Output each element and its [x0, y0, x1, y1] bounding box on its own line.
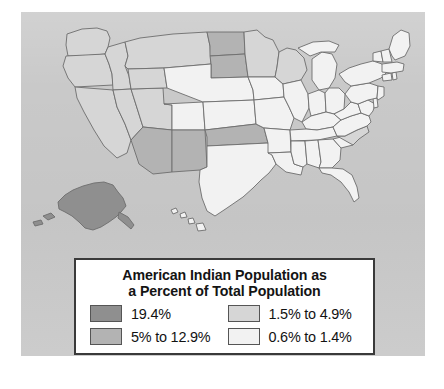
state-ND — [207, 32, 245, 56]
state-FL — [319, 168, 359, 202]
state-RI — [392, 72, 397, 80]
state-TX — [199, 143, 276, 216]
state-WA — [66, 28, 110, 56]
legend-label-2: 5% to 12.9% — [131, 329, 210, 345]
legend-item-0: 19.4% — [90, 305, 226, 322]
legend-label-1: 1.5% to 4.9% — [269, 306, 352, 322]
state-NM — [172, 130, 207, 172]
state-AR — [264, 128, 291, 153]
legend-swatch-2 — [90, 328, 122, 345]
state-MI-up — [298, 41, 339, 56]
state-AK-panhandle — [118, 212, 134, 229]
map-legend: American Indian Population as a Percent … — [74, 258, 375, 355]
legend-items: 19.4% 1.5% to 4.9% 5% to 12.9% 0.6% to 1… — [86, 305, 363, 345]
state-MN — [244, 30, 279, 77]
state-ME — [389, 30, 410, 60]
state-AK-aleutians-1 — [43, 213, 55, 220]
legend-title-line-2: a Percent of Total Population — [86, 283, 363, 299]
state-AK — [58, 182, 126, 230]
state-MT — [125, 32, 211, 69]
legend-swatch-3 — [228, 328, 260, 345]
legend-item-3: 0.6% to 1.4% — [228, 328, 364, 345]
state-HI-1 — [171, 208, 178, 214]
state-WY — [128, 68, 167, 89]
legend-item-1: 1.5% to 4.9% — [228, 305, 364, 322]
state-NJ — [377, 86, 384, 100]
legend-label-0: 19.4% — [131, 306, 171, 322]
legend-swatch-1 — [228, 305, 260, 322]
state-MA — [382, 62, 404, 73]
state-OR — [63, 54, 113, 87]
state-HI-3 — [188, 218, 195, 224]
state-AZ — [131, 127, 172, 174]
legend-swatch-0 — [90, 305, 122, 322]
state-MS — [291, 141, 307, 167]
state-MI — [312, 52, 337, 90]
legend-title: American Indian Population as a Percent … — [86, 267, 363, 299]
legend-label-3: 0.6% to 1.4% — [269, 329, 352, 345]
state-IN — [308, 90, 326, 116]
state-HI-2 — [180, 212, 187, 218]
state-SD — [210, 54, 248, 78]
state-WI — [275, 48, 307, 84]
us-map-svg — [21, 12, 425, 262]
state-NY — [339, 61, 387, 86]
us-map — [21, 12, 425, 262]
legend-title-line-1: American Indian Population as — [86, 267, 363, 283]
state-HI-4 — [196, 223, 206, 231]
legend-item-2: 5% to 12.9% — [90, 328, 226, 345]
state-AK-aleutians-2 — [33, 220, 43, 226]
choropleth-figure: American Indian Population as a Percent … — [0, 0, 444, 389]
